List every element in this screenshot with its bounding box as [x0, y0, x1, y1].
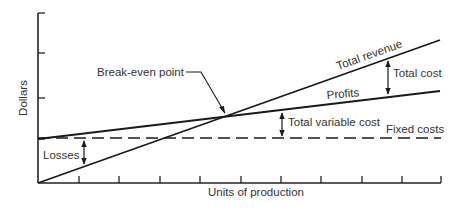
break-even-leader	[186, 72, 225, 113]
total-revenue-line	[38, 40, 440, 183]
total-cost-label: Total cost	[393, 67, 442, 79]
total-variable-cost-label: Total variable cost	[288, 116, 381, 128]
profits-label: Profits	[326, 86, 360, 101]
break-even-arrowhead-icon	[219, 106, 225, 114]
fixed-costs-label: Fixed costs	[386, 123, 444, 135]
total-cost-line	[38, 91, 440, 139]
break-even-chart: Dollars Units of production Break-even p…	[0, 0, 461, 210]
x-axis-label: Units of production	[208, 186, 304, 198]
y-axis-label: Dollars	[17, 80, 29, 116]
x-ticks	[79, 176, 441, 183]
break-even-label: Break-even point	[97, 66, 185, 78]
losses-label: Losses	[43, 149, 80, 161]
